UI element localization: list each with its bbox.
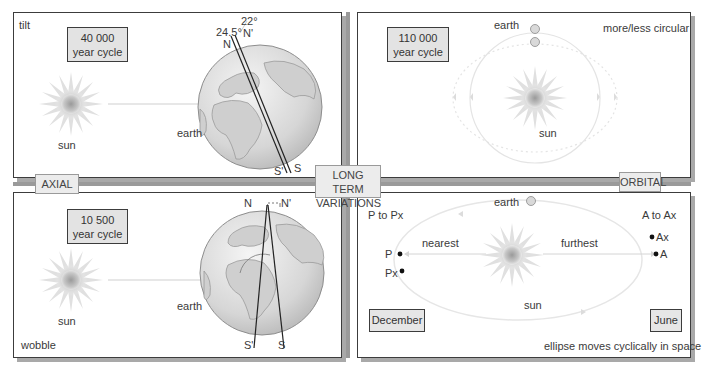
point-px-label: Px — [385, 267, 398, 279]
point-a-marker — [654, 252, 659, 257]
wobble-illustration — [14, 193, 343, 359]
wobble-pole-s: S — [278, 339, 285, 351]
june-box: June — [650, 309, 682, 332]
wobble-pole-n: N — [244, 197, 252, 209]
furthest-label: furthest — [561, 237, 598, 249]
panel-wobble: wobble 10 500 year cycle — [13, 192, 342, 358]
panel-eccentricity: more/less circular 110 000 year cycle — [357, 12, 691, 178]
earth-globe-icon — [200, 211, 324, 335]
precession-footer: ellipse moves cyclically in space — [544, 340, 701, 352]
tilt-pole-n: N — [223, 38, 231, 50]
precession-left-label: P to Px — [368, 209, 403, 221]
wobble-pole-s-prime: S' — [244, 339, 253, 351]
tilt-pole-s: S — [294, 162, 301, 174]
precession-sun-label: sun — [524, 299, 542, 311]
sun-icon — [503, 66, 567, 130]
wobble-earth-label: earth — [177, 300, 202, 312]
point-p-marker — [398, 252, 403, 257]
tilt-pole-n-prime: N' — [243, 27, 253, 39]
precession-earth-label: earth — [494, 196, 519, 208]
orbital-tag: ORBITAL — [619, 172, 661, 192]
earth-small-icon — [527, 197, 536, 206]
sun-icon — [480, 223, 544, 287]
tilt-angle-24-5: 24.5° — [216, 26, 242, 38]
tilt-angle-22: 22° — [241, 15, 258, 27]
point-ax-marker — [650, 235, 655, 240]
point-a-label: A — [660, 248, 667, 260]
eccentricity-earth-label: earth — [494, 19, 519, 31]
eccentricity-sun-label: sun — [539, 127, 557, 139]
point-p-label: P — [385, 248, 392, 260]
panel-precession: P to Px A to Ax earth sun nearest furthe… — [357, 192, 691, 358]
long-term-variations-label: LONG TERM VARIATIONS — [315, 165, 381, 198]
axial-tag: AXIAL — [35, 174, 79, 194]
earth-small-icon — [531, 25, 540, 47]
wobble-sun-label: sun — [58, 315, 76, 327]
panel-tilt: tilt 40 000 year cycle — [13, 12, 342, 178]
sun-icon — [39, 72, 103, 136]
point-px-marker — [400, 269, 405, 274]
precession-right-label: A to Ax — [642, 209, 676, 221]
december-box: December — [369, 309, 425, 332]
tilt-earth-label: earth — [177, 127, 202, 139]
wobble-pole-n-prime: N' — [281, 197, 291, 209]
eccentricity-illustration — [358, 13, 692, 179]
tilt-sun-label: sun — [58, 139, 76, 151]
tilt-illustration — [14, 13, 343, 179]
tilt-pole-s-prime: S' — [274, 165, 283, 177]
nearest-label: nearest — [422, 237, 459, 249]
point-ax-label: Ax — [656, 231, 669, 243]
sun-icon — [39, 248, 103, 312]
